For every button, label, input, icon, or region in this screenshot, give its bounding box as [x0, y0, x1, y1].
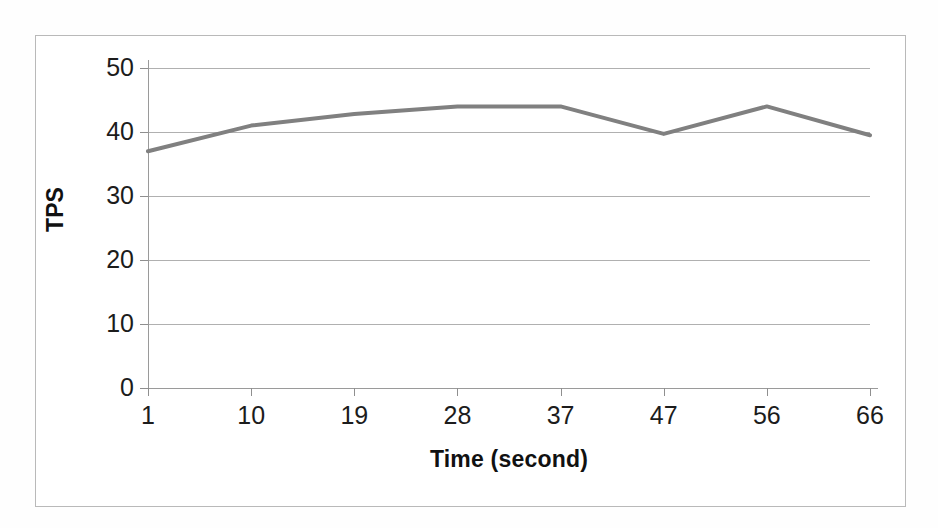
x-tick-mark-47 [664, 388, 665, 396]
chart-figure: 01020304050 110192837475666 Time (second… [0, 0, 938, 528]
x-tick-mark-19 [354, 388, 355, 396]
plot-area [148, 68, 870, 388]
x-tick-mark-10 [251, 388, 252, 396]
x-tick-mark-56 [767, 388, 768, 396]
y-tick-mark-40 [140, 132, 148, 133]
x-tick-mark-66 [870, 388, 871, 396]
series-line-tps [148, 68, 870, 388]
y-tick-mark-20 [140, 260, 148, 261]
y-tick-mark-10 [140, 324, 148, 325]
y-tick-label-0: 0 [88, 375, 134, 400]
y-tick-label-20: 20 [88, 247, 134, 272]
y-tick-label-30: 30 [88, 183, 134, 208]
x-tick-mark-28 [457, 388, 458, 396]
x-tick-mark-37 [561, 388, 562, 396]
x-tick-label-66: 66 [830, 402, 910, 428]
y-tick-label-50: 50 [88, 55, 134, 80]
x-tick-label-1: 1 [108, 402, 188, 428]
x-tick-label-56: 56 [727, 402, 807, 428]
x-tick-mark-1 [148, 388, 149, 396]
y-axis-tick-labels: 01020304050 [82, 0, 134, 528]
tps-line-path [148, 106, 870, 151]
y-tick-mark-0 [140, 388, 148, 389]
x-tick-label-10: 10 [211, 402, 291, 428]
x-axis-title: Time (second) [148, 446, 870, 473]
x-tick-label-19: 19 [314, 402, 394, 428]
y-tick-mark-30 [140, 196, 148, 197]
x-tick-label-37: 37 [521, 402, 601, 428]
x-tick-label-28: 28 [417, 402, 497, 428]
x-tick-label-47: 47 [624, 402, 704, 428]
y-tick-mark-50 [140, 68, 148, 69]
y-tick-label-40: 40 [88, 119, 134, 144]
y-axis-title: TPS [42, 150, 69, 270]
y-tick-label-10: 10 [88, 311, 134, 336]
